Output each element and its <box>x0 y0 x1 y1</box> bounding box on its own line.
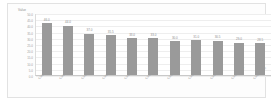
chart-frame[interactable]: Value 50.045.040.035.030.025.020.015.010… <box>7 3 266 98</box>
bar-value-label: 46.0 <box>44 19 50 22</box>
x-label-slot: Category 11 <box>250 76 271 102</box>
bar-value-label: 33.0 <box>151 34 157 37</box>
bar-slot: 46.0 <box>36 14 57 75</box>
x-label-slot: Category 7 <box>164 76 185 102</box>
y-tick-label: 25.0 <box>27 45 33 48</box>
y-tick-label: 20.0 <box>27 51 33 54</box>
x-label-slot: Category 8 <box>185 76 206 102</box>
bar-value-label: 37.0 <box>86 29 92 32</box>
y-tick-label: 35.0 <box>27 33 33 36</box>
chart-card: Value 50.045.040.035.030.025.020.015.010… <box>0 0 280 104</box>
bar-slot: 29.0 <box>228 14 249 75</box>
y-tick-label: 15.0 <box>27 57 33 60</box>
bar-value-label: 30.0 <box>172 37 178 40</box>
bar-slot: 37.0 <box>79 14 100 75</box>
bar-slot: 30.0 <box>164 14 185 75</box>
y-tick-label: 45.0 <box>27 20 33 23</box>
y-tick-label: 30.0 <box>27 39 33 42</box>
y-tick-label: 0.0 <box>29 76 33 79</box>
y-tick-label: 5.0 <box>29 70 33 73</box>
bar-slot: 33.0 <box>121 14 142 75</box>
bar-slot: 28.5 <box>250 14 271 75</box>
x-label-slot: Category 3 <box>78 76 99 102</box>
bar-series: 46.044.037.035.533.033.030.031.030.529.0… <box>36 14 271 75</box>
bar-slot: 33.0 <box>143 14 164 75</box>
x-label-slot: Category 5 <box>121 76 142 102</box>
x-label-slot: Category 1 <box>35 76 56 102</box>
bar-value-label: 28.5 <box>257 39 263 42</box>
bar-value-label: 29.0 <box>236 38 242 41</box>
y-axis-tick-labels: 50.045.040.035.030.025.020.015.010.05.00… <box>18 12 34 78</box>
bar-value-label: 30.5 <box>215 36 221 39</box>
y-tick-label: 10.0 <box>27 64 33 67</box>
x-axis-category-labels: Category 1Category 2Category 3Category 4… <box>35 76 271 102</box>
bar-value-label: 31.0 <box>193 36 199 39</box>
y-tick-label: 50.0 <box>27 14 33 17</box>
bar-value-label: 44.0 <box>65 21 71 24</box>
bar-slot: 30.5 <box>207 14 228 75</box>
x-label-slot: Category 6 <box>142 76 163 102</box>
x-label-slot: Category 10 <box>228 76 249 102</box>
x-label-slot: Category 4 <box>99 76 120 102</box>
bar-value-label: 35.5 <box>108 31 114 34</box>
x-label-slot: Category 9 <box>207 76 228 102</box>
bar-value-label: 33.0 <box>129 34 135 37</box>
bar-slot: 31.0 <box>186 14 207 75</box>
y-tick-label: 40.0 <box>27 26 33 29</box>
x-label-slot: Category 2 <box>56 76 77 102</box>
